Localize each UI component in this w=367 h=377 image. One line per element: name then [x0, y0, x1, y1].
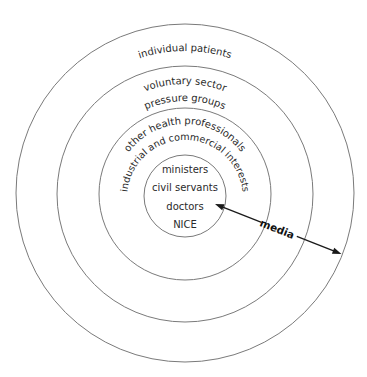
- arrow-shaft-inner: [220, 206, 262, 223]
- label-nice: NICE: [173, 219, 197, 230]
- stakeholder-diagram: individual patients voluntary sector pre…: [0, 0, 367, 377]
- label-doctors: doctors: [166, 201, 203, 212]
- arrow-head-outer-icon: [332, 248, 343, 257]
- label-media: media: [258, 216, 296, 241]
- arrow-head-inner-icon: [214, 201, 225, 210]
- label-civil-servants: civil servants: [152, 182, 218, 193]
- ring-second: [57, 66, 313, 322]
- label-voluntary-sector: voluntary sector: [142, 75, 229, 94]
- label-pressure-groups: pressure groups: [142, 92, 227, 111]
- label-individual-patients: individual patients: [137, 42, 233, 60]
- ring-outer: [16, 24, 354, 362]
- media-arrow: media: [213, 198, 344, 259]
- label-ministers: ministers: [162, 164, 208, 175]
